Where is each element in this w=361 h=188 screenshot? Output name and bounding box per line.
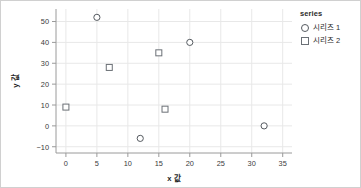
y-tick-label: 10 (41, 101, 49, 110)
scatter-plot-svg: 05101520253035 −1001020304050 x 값 y 값 (1, 1, 301, 187)
y-tick-label: 0 (45, 122, 49, 131)
scatter-plot-figure: 05101520253035 −1001020304050 x 값 y 값 se… (0, 0, 361, 188)
x-tick-label: 30 (248, 159, 256, 168)
data-point-series-1 (187, 39, 193, 45)
data-points-group (63, 14, 267, 141)
data-point-series-2 (156, 50, 162, 56)
y-tick-label: 30 (41, 59, 49, 68)
legend-item-series-1[interactable]: 시리즈 1 (300, 22, 360, 33)
legend-item-series-2[interactable]: 시리즈 2 (300, 35, 360, 46)
data-point-series-2 (106, 64, 112, 70)
x-tick-label: 0 (64, 159, 68, 168)
data-point-series-1 (261, 123, 267, 129)
plot-area-container: 05101520253035 −1001020304050 x 값 y 값 (1, 1, 301, 187)
axis-lines-group (56, 9, 292, 153)
y-tick-label: 20 (41, 80, 49, 89)
data-point-series-2 (63, 104, 69, 110)
circle-marker-icon (300, 23, 309, 32)
x-axis-ticks-group: 05101520253035 (64, 153, 287, 168)
x-tick-label: 35 (279, 159, 287, 168)
y-axis-title: y 값 (10, 74, 20, 87)
data-point-series-1 (137, 135, 143, 141)
x-tick-label: 25 (217, 159, 225, 168)
legend-item-label: 시리즈 1 (313, 23, 340, 33)
legend: series 시리즈 1 시리즈 2 (300, 9, 360, 48)
data-point-series-1 (94, 14, 100, 20)
x-tick-label: 20 (186, 159, 194, 168)
square-marker-icon (300, 36, 309, 45)
x-tick-label: 15 (155, 159, 163, 168)
gridlines-group (56, 9, 292, 153)
data-point-series-2 (162, 106, 168, 112)
x-tick-label: 5 (95, 159, 99, 168)
x-axis-title: x 값 (167, 173, 180, 183)
y-tick-label: 40 (41, 38, 49, 47)
legend-item-label: 시리즈 2 (313, 36, 340, 46)
y-tick-label: 50 (41, 17, 49, 26)
x-tick-label: 10 (124, 159, 132, 168)
y-tick-label: −10 (36, 143, 49, 152)
legend-title: series (300, 9, 360, 18)
y-axis-ticks-group: −1001020304050 (36, 17, 56, 151)
